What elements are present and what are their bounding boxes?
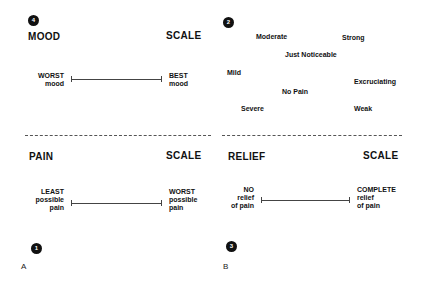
divider-left	[25, 135, 211, 136]
anchor-line: BEST	[169, 72, 188, 80]
anchor-line: of pain	[357, 202, 396, 210]
pain-word-just-noticeable[interactable]: Just Noticeable	[285, 51, 337, 58]
anchor-line: relief	[220, 194, 254, 202]
pain-word-severe[interactable]: Severe	[241, 105, 264, 112]
pain-word-excruciating[interactable]: Excruciating	[354, 78, 396, 85]
anchor-line: LEAST	[28, 188, 64, 196]
step-badge-2: 2	[223, 17, 234, 28]
pain-word-weak[interactable]: Weak	[354, 105, 372, 112]
pain-left-anchor: LEAST possible pain	[28, 188, 64, 212]
panel-letter-b: B	[223, 262, 228, 271]
relief-right-anchor: COMPLETE relief of pain	[357, 186, 396, 210]
anchor-line: possible	[169, 196, 197, 204]
relief-scale-title: SCALE	[363, 150, 398, 161]
anchor-line: COMPLETE	[357, 186, 396, 194]
anchor-line: mood	[169, 80, 188, 88]
anchor-line: relief	[357, 194, 396, 202]
anchor-line: of pain	[220, 202, 254, 210]
relief-left-anchor: NO relief of pain	[220, 186, 254, 210]
relief-visual-analog-line[interactable]	[261, 200, 350, 201]
pain-visual-analog-line[interactable]	[71, 203, 162, 204]
anchor-line: mood	[30, 80, 64, 88]
relief-scale-right-tick	[349, 197, 350, 203]
pain-word-mild[interactable]: Mild	[227, 69, 241, 76]
step-badge-4: 4	[28, 15, 39, 26]
relief-title: RELIEF	[228, 151, 265, 162]
pain-scale-right-tick	[161, 200, 162, 206]
pain-right-anchor: WORST possible pain	[169, 188, 197, 212]
mood-scale-right-tick	[161, 76, 162, 82]
pain-word-no-pain[interactable]: No Pain	[282, 88, 308, 95]
mood-scale-title: SCALE	[166, 30, 201, 41]
anchor-line: NO	[220, 186, 254, 194]
anchor-line: WORST	[30, 72, 64, 80]
mood-visual-analog-line[interactable]	[71, 79, 162, 80]
pain-title: PAIN	[29, 151, 53, 162]
mood-right-anchor: BEST mood	[169, 72, 188, 88]
panel-letter-a: A	[21, 262, 26, 271]
anchor-line: possible	[28, 196, 64, 204]
step-badge-1: 1	[31, 243, 42, 254]
pain-scale-title: SCALE	[166, 150, 201, 161]
anchor-line: pain	[169, 204, 197, 212]
divider-right	[222, 135, 402, 136]
pain-word-strong[interactable]: Strong	[342, 34, 365, 41]
anchor-line: pain	[28, 204, 64, 212]
mood-title: MOOD	[28, 31, 60, 42]
mood-left-anchor: WORST mood	[30, 72, 64, 88]
anchor-line: WORST	[169, 188, 197, 196]
step-badge-3: 3	[226, 241, 237, 252]
pain-word-moderate[interactable]: Moderate	[256, 33, 287, 40]
